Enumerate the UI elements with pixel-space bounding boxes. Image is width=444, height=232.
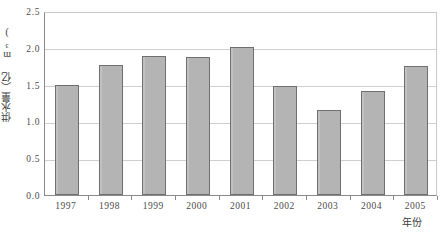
y-tick-label: 0.0 [14,191,40,201]
y-tick-label: 2.0 [14,44,40,54]
x-axis-title: 年份 [386,214,438,229]
x-tick-mark [219,196,220,200]
y-tick-label: 0.5 [14,154,40,164]
x-tick-mark [131,196,132,200]
bar[interactable] [317,110,341,195]
plot-area [44,12,437,196]
bar[interactable] [361,91,385,195]
bar[interactable] [186,57,210,195]
x-tick-mark [350,196,351,200]
y-tick-label: 1.5 [14,81,40,91]
bar[interactable] [142,56,166,195]
bar[interactable] [55,85,79,195]
x-tick-mark [262,196,263,200]
x-tick-label: 2005 [389,201,441,211]
x-tick-mark [437,196,438,200]
bar[interactable] [230,47,254,195]
x-tick-mark [175,196,176,200]
y-tick-label: 1.0 [14,117,40,127]
x-tick-mark [306,196,307,200]
y-axis-tick-labels: 0.00.51.01.52.02.5 [8,0,40,232]
y-tick-label: 2.5 [14,7,40,17]
x-tick-mark [393,196,394,200]
bar[interactable] [99,65,123,195]
bar[interactable] [273,86,297,195]
bar[interactable] [404,66,428,195]
x-tick-mark [88,196,89,200]
bar-chart: 供水量（亿 m³) 0.00.51.01.52.02.5 年份 19971998… [0,0,444,232]
